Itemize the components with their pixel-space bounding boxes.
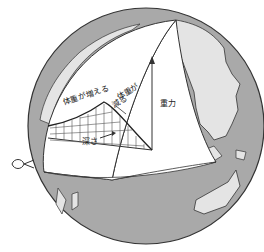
earth-illustration <box>0 0 264 252</box>
label-depth: 深さ <box>82 138 98 146</box>
label-gravity: 重力 <box>160 100 176 108</box>
eye-icon <box>12 160 34 169</box>
island <box>236 150 246 160</box>
earth-diagram: 体重が増える 体重が 減る 重力 深さ <box>0 0 264 252</box>
